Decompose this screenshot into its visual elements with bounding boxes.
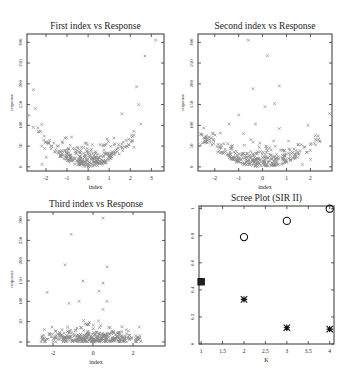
y-tick-label: 300 (189, 38, 194, 46)
y-tick-label: 0 (18, 165, 23, 168)
axes: -202050100150200250300 (18, 212, 165, 356)
x-axis-label: index (89, 359, 102, 365)
axes: 11.522.533.5400.20.40.60.81 (190, 206, 334, 354)
x-tick-label: -2 (44, 175, 49, 181)
y-tick-label: 50 (18, 319, 23, 325)
x-tick-label: 2 (129, 175, 132, 181)
plot-frame (198, 34, 332, 171)
y-axis-label: response (9, 269, 14, 287)
y-tick-label: 150 (18, 277, 23, 285)
x-tick-label: 3 (150, 175, 153, 181)
y-tick-label: 50 (189, 143, 194, 149)
x-tick-label: 2.5 (262, 348, 269, 354)
y-tick-label: 200 (18, 256, 23, 264)
scatter-first-index-vs-response: First index vs Response-2-10123050100150… (0, 0, 177, 190)
x-tick-label: -2 (212, 175, 217, 181)
chart-title: First index vs Response (50, 21, 141, 31)
y-tick-label: 100 (18, 121, 23, 129)
x-tick-label: -1 (236, 175, 241, 181)
y-tick-label: 300 (18, 216, 23, 224)
eigenvalue-marker (198, 279, 204, 285)
scatter-second-index-vs-response: Second index vs Response-2-1012050100150… (177, 0, 354, 190)
y-tick-label: 150 (189, 100, 194, 108)
scree-plot-sir-ii: Scree Plot (SIR II)11.522.533.5400.20.40… (177, 190, 354, 380)
cumulative-marker (283, 217, 290, 224)
y-axis-label: response (180, 93, 185, 111)
x-tick-label: 2 (132, 350, 135, 356)
y-tick-label: 150 (18, 100, 23, 108)
y-tick-label: 0 (190, 342, 195, 345)
x-tick-label: 0 (92, 350, 95, 356)
y-tick-label: 0.4 (190, 286, 195, 293)
y-tick-label: 0 (18, 340, 23, 343)
y-tick-label: 0.6 (190, 259, 195, 266)
y-tick-label: 250 (18, 59, 23, 67)
x-tick-label: 1 (200, 348, 203, 354)
plot-second-index: Second index vs Response-2-1012050100150… (177, 0, 354, 190)
y-tick-label: 50 (18, 143, 23, 149)
eigenvalue-marker (284, 325, 290, 331)
y-tick-label: 100 (189, 121, 194, 129)
scatter-third-index-vs-response: Third index vs Response-2020501001502002… (0, 190, 177, 380)
chart-title: Second index vs Response (214, 21, 315, 31)
data-points (198, 205, 333, 332)
eigenvalue-marker (327, 326, 333, 332)
y-tick-label: 200 (189, 80, 194, 88)
cumulative-marker (240, 234, 247, 241)
plot-frame (199, 206, 334, 344)
x-tick-label: 1 (285, 175, 288, 181)
x-axis-label: K (264, 357, 269, 363)
x-tick-label: 3 (285, 348, 288, 354)
x-tick-label: 1.5 (219, 348, 226, 354)
data-points (28, 39, 157, 168)
plot-first-index: First index vs Response-2-10123050100150… (0, 0, 177, 190)
x-tick-label: 0 (261, 175, 264, 181)
y-tick-label: 300 (18, 38, 23, 46)
x-tick-label: 4 (328, 348, 331, 354)
plot-scree-sir2: Scree Plot (SIR II)11.522.533.5400.20.40… (177, 190, 354, 380)
y-tick-label: 0.8 (190, 232, 195, 239)
eigenvalue-marker (241, 296, 247, 302)
x-tick-label: -1 (65, 175, 70, 181)
x-tick-label: -2 (51, 350, 56, 356)
y-tick-label: 0 (189, 165, 194, 168)
x-tick-label: 1 (108, 175, 111, 181)
y-axis-label: response (9, 93, 14, 111)
x-tick-label: 0 (87, 175, 90, 181)
y-tick-label: 250 (18, 236, 23, 244)
chart-title: Scree Plot (SIR II) (231, 193, 302, 204)
x-tick-label: 3.5 (305, 348, 312, 354)
x-tick-label: 2 (243, 348, 246, 354)
y-tick-label: 0.2 (190, 313, 195, 320)
y-tick-label: 100 (18, 297, 23, 305)
plot-third-index: Third index vs Response-2020501001502002… (0, 190, 177, 380)
y-tick-label: 250 (189, 59, 194, 67)
x-tick-label: 2 (309, 175, 312, 181)
plot-frame (27, 212, 165, 346)
data-points (199, 39, 331, 168)
plot-frame (27, 34, 164, 171)
chart-title: Third index vs Response (49, 199, 143, 209)
y-tick-label: 1 (190, 207, 195, 210)
data-points (40, 217, 143, 343)
y-tick-label: 200 (18, 80, 23, 88)
